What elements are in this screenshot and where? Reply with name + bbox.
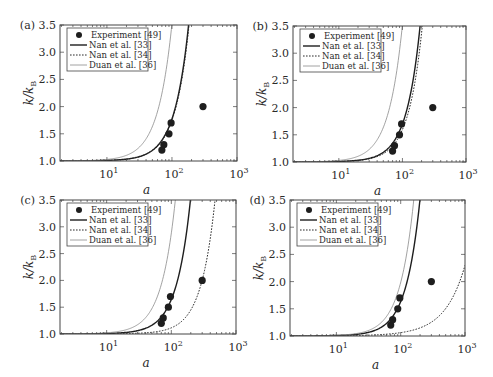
- x-tick-label: 101: [99, 166, 118, 181]
- legend: Experiment [49]Nan et al. [33]Nan et al.…: [67, 28, 161, 71]
- y-tick-label: 2.5: [39, 73, 57, 86]
- legend-entry-label: Duan et al. [36]: [322, 61, 389, 71]
- y-tick-label: 1.0: [39, 155, 57, 168]
- legend: Experiment [49]Nan et al. [33]Nan et al.…: [67, 203, 161, 246]
- figure: 1011021031.01.52.02.53.0(a) 3.5ak/kBExpe…: [0, 0, 493, 377]
- legend-entry-label: Experiment [49]: [321, 205, 391, 215]
- x-axis-label: a: [374, 184, 381, 198]
- legend-marker-experiment: [76, 207, 82, 213]
- y-tick-label: 1.5: [39, 301, 57, 314]
- x-axis-label: a: [372, 358, 379, 372]
- experiment-point: [396, 294, 403, 301]
- experiment-point: [396, 131, 403, 138]
- legend-marker-experiment: [76, 32, 82, 38]
- y-tick-label: 1.0: [39, 328, 57, 341]
- curve-nan-et-al-33: [60, 162, 194, 333]
- legend-entry-label: Nan et al. [33]: [322, 41, 384, 51]
- legend-entry-label: Nan et al. [33]: [89, 215, 151, 225]
- experiment-point: [391, 142, 398, 149]
- experiment-point: [165, 304, 172, 311]
- panel-label: (d) 3.5: [249, 194, 286, 207]
- panel-c: 1011021031.01.52.02.53.0(c) 3.5ak/kBExpe…: [20, 162, 247, 370]
- experiment-point: [199, 277, 206, 284]
- x-tick-label: 102: [395, 167, 414, 182]
- curve-duan-et-al-36: [293, 0, 406, 162]
- legend-entry-label: Experiment [49]: [91, 30, 161, 40]
- y-axis-label: k/kB: [255, 82, 271, 107]
- legend-entry-label: Nan et al. [34]: [322, 51, 384, 61]
- curve-nan-et-al-33: [293, 0, 424, 162]
- x-tick-label: 102: [393, 341, 412, 356]
- y-tick-label: 3.0: [272, 47, 290, 60]
- y-tick-label: 3.0: [39, 46, 57, 59]
- legend-entry-label: Duan et al. [36]: [89, 60, 156, 70]
- y-tick-label: 1.5: [269, 303, 287, 316]
- x-tick-label: 103: [457, 341, 476, 356]
- experiment-point: [199, 103, 206, 110]
- curve-duan-et-al-36: [60, 162, 180, 333]
- legend-entry-label: Nan et al. [33]: [89, 40, 151, 50]
- curve-nan-et-al-34: [293, 0, 426, 162]
- y-tick-label: 2.5: [272, 74, 290, 87]
- legend-entry-label: Duan et al. [36]: [89, 235, 156, 245]
- panel-label: (b) 3.5: [252, 20, 289, 33]
- experiment-point: [165, 130, 172, 137]
- legend-entry-label: Nan et al. [34]: [89, 225, 151, 235]
- legend: Experiment [49]Nan et al. [33]Nan et al.…: [300, 29, 394, 72]
- y-tick-label: 2.0: [39, 101, 57, 114]
- legend-entry-label: Duan et al. [36]: [319, 235, 386, 245]
- panel-b: 1011021031.01.52.02.53.0(b) 3.5ak/kBExpe…: [252, 0, 477, 198]
- y-axis-label: k/kB: [22, 255, 38, 280]
- curves: [60, 0, 193, 161]
- x-tick-label: 101: [329, 341, 348, 356]
- y-tick-label: 2.5: [269, 248, 287, 261]
- experiment-point: [394, 305, 401, 312]
- legend-entry-label: Experiment [49]: [324, 31, 394, 41]
- x-tick-label: 103: [228, 339, 247, 354]
- experiment-point: [429, 104, 436, 111]
- y-tick-label: 3.0: [39, 221, 57, 234]
- x-tick-label: 103: [229, 166, 248, 181]
- experiment-point: [428, 278, 435, 285]
- legend-entry-label: Nan et al. [34]: [89, 50, 151, 60]
- x-tick-label: 102: [164, 166, 183, 181]
- x-tick-label: 102: [164, 339, 183, 354]
- panel-d: 1011021031.01.52.02.53.0(d) 3.5ak/kBExpe…: [249, 162, 476, 372]
- curve-nan-et-al-33: [290, 162, 423, 336]
- legend-marker-experiment: [309, 33, 315, 39]
- y-tick-label: 1.5: [39, 128, 57, 141]
- experiment-point: [167, 119, 174, 126]
- panel-a: 1011021031.01.52.02.53.0(a) 3.5ak/kBExpe…: [20, 0, 249, 197]
- panel-label: (a) 3.5: [20, 19, 56, 32]
- legend-marker-experiment: [306, 207, 312, 213]
- x-axis-label: a: [142, 356, 149, 370]
- y-tick-label: 3.0: [269, 221, 287, 234]
- y-tick-label: 1.0: [269, 330, 287, 343]
- legend-entry-label: Nan et al. [33]: [319, 215, 381, 225]
- curves: [293, 0, 426, 162]
- y-tick-label: 2.5: [39, 248, 57, 261]
- x-tick-label: 103: [458, 167, 477, 182]
- experiment-point: [398, 120, 405, 127]
- curve-nan-et-al-34: [60, 0, 193, 161]
- y-axis-label: k/kB: [252, 256, 268, 281]
- x-tick-label: 101: [99, 339, 118, 354]
- experiment-point: [160, 141, 167, 148]
- y-tick-label: 1.0: [272, 156, 290, 169]
- experiment-point: [389, 316, 396, 323]
- y-tick-label: 2.0: [272, 102, 290, 115]
- y-axis-label: k/kB: [22, 81, 38, 106]
- y-tick-label: 2.0: [269, 276, 287, 289]
- y-tick-label: 2.0: [39, 274, 57, 287]
- curve-duan-et-al-36: [60, 0, 176, 161]
- x-axis-label: a: [143, 183, 150, 197]
- curves: [60, 162, 219, 333]
- experiment-point: [160, 314, 167, 321]
- y-tick-label: 1.5: [272, 129, 290, 142]
- legend-entry-label: Experiment [49]: [91, 205, 161, 215]
- legend-entry-label: Nan et al. [34]: [319, 225, 381, 235]
- curve-nan-et-al-34: [60, 162, 219, 333]
- curve-nan-et-al-33: [60, 0, 193, 161]
- experiment-point: [167, 293, 174, 300]
- panel-label: (c) 3.5: [20, 194, 56, 207]
